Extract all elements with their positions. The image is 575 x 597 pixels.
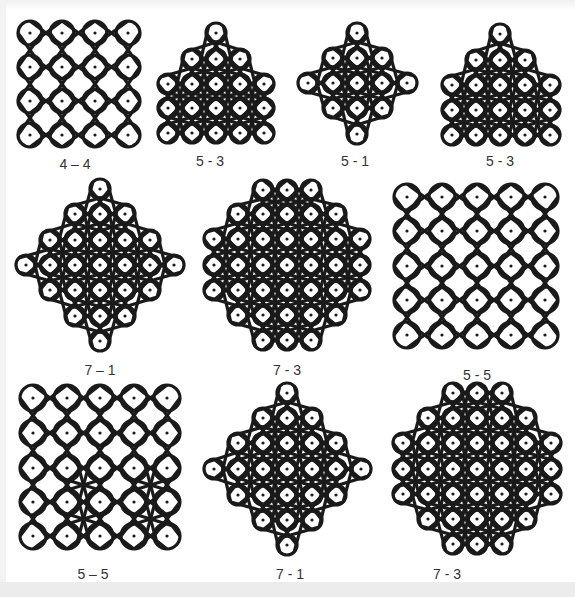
grid-dot <box>475 441 478 444</box>
grid-dot <box>60 65 63 68</box>
panel-label-7-3-b: 7 - 3 <box>433 566 461 582</box>
grid-dot <box>31 500 34 503</box>
grid-dot <box>28 99 31 102</box>
grid-dot <box>261 288 264 291</box>
grid-dot <box>524 467 527 470</box>
kolam-panel-p1 <box>18 21 140 147</box>
grid-dot <box>190 57 193 60</box>
grid-dot <box>405 264 408 267</box>
grid-dot <box>475 467 478 470</box>
grid-dot <box>451 416 454 419</box>
grid-dot <box>238 82 241 85</box>
grid-dot <box>98 339 101 342</box>
grid-dot <box>148 238 151 241</box>
grid-dot <box>261 212 264 215</box>
grid-dot <box>358 288 361 291</box>
grid-dot <box>262 131 265 134</box>
grid-dot <box>309 288 312 291</box>
grid-dot <box>358 263 361 266</box>
grid-dot <box>238 131 241 134</box>
grid-dot <box>380 81 383 84</box>
grid-dot <box>132 466 135 469</box>
grid-dot <box>524 492 527 495</box>
grid-dot <box>212 288 215 291</box>
kolam-panel-p10 <box>393 383 561 554</box>
grid-dot <box>98 238 101 241</box>
grid-dot <box>523 108 526 111</box>
grid-dot <box>549 441 552 444</box>
grid-dot <box>509 264 512 267</box>
grid-dot <box>440 195 443 198</box>
grid-dot <box>214 82 217 85</box>
grid-dot <box>498 133 501 136</box>
grid-dot <box>165 500 168 503</box>
grid-dot <box>65 466 68 469</box>
grid-dot <box>126 65 129 68</box>
grid-dot <box>236 288 239 291</box>
grid-dot <box>331 106 334 109</box>
grid-dot <box>285 543 288 546</box>
grid-dot <box>334 212 337 215</box>
kolam-panel-p4 <box>442 24 560 145</box>
grid-dot <box>285 237 288 240</box>
grid-dot <box>334 237 337 240</box>
grid-dot <box>212 467 215 470</box>
grid-dot <box>236 212 239 215</box>
grid-dot <box>285 288 288 291</box>
grid-dot <box>451 391 454 394</box>
grid-dot <box>355 81 358 84</box>
grid-dot <box>166 82 169 85</box>
grid-dot <box>309 212 312 215</box>
grid-dot <box>132 396 135 399</box>
grid-dot <box>236 467 239 470</box>
grid-dot <box>475 195 478 198</box>
grid-dot <box>310 467 313 470</box>
grid-dot <box>405 195 408 198</box>
panel-label-5-3-b: 5 - 3 <box>486 153 514 169</box>
grid-dot <box>165 534 168 537</box>
panel-label-5-1: 5 - 1 <box>341 153 369 169</box>
grid-dot <box>405 333 408 336</box>
grid-dot <box>285 441 288 444</box>
grid-dot <box>500 416 503 419</box>
grid-dot <box>401 492 404 495</box>
grid-dot <box>548 108 551 111</box>
grid-dot <box>236 441 239 444</box>
grid-dot <box>500 441 503 444</box>
grid-dot <box>123 263 126 266</box>
grid-dot <box>310 518 313 521</box>
grid-dot <box>475 229 478 232</box>
grid-dot <box>380 56 383 59</box>
grid-dot <box>285 391 288 394</box>
kolam-panel-p6 <box>204 180 370 350</box>
grid-dot <box>48 238 51 241</box>
grid-dot <box>262 82 265 85</box>
grid-dot <box>48 263 51 266</box>
grid-dot <box>309 313 312 316</box>
grid-dot <box>214 131 217 134</box>
grid-dot <box>359 467 362 470</box>
grid-dot <box>261 313 264 316</box>
grid-dot <box>500 517 503 520</box>
grid-dot <box>238 106 241 109</box>
grid-dot <box>28 133 31 136</box>
grid-dot <box>98 500 101 503</box>
grid-dot <box>73 288 76 291</box>
grid-dot <box>98 466 101 469</box>
panel-label-4-4: 4 – 4 <box>59 156 90 172</box>
grid-dot <box>214 106 217 109</box>
grid-dot <box>310 441 313 444</box>
grid-dot <box>405 298 408 301</box>
kolam-panel-p2 <box>158 23 274 143</box>
grid-dot <box>48 288 51 291</box>
grid-dot <box>524 416 527 419</box>
grid-dot <box>475 416 478 419</box>
grid-dot <box>548 83 551 86</box>
grid-dot <box>65 396 68 399</box>
grid-dot <box>285 467 288 470</box>
grid-dot <box>126 133 129 136</box>
grid-dot <box>426 441 429 444</box>
grid-dot <box>475 542 478 545</box>
panel-label-7-1-b: 7 - 1 <box>276 566 304 582</box>
grid-dot <box>331 56 334 59</box>
